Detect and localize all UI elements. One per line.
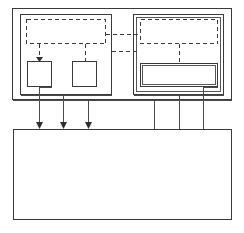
right-panel — [134, 15, 224, 95]
outer-container — [13, 9, 232, 100]
left-panel — [21, 15, 112, 95]
arrow-connector-three-head — [85, 122, 92, 129]
right-dashed-region — [141, 20, 218, 44]
arrow-connector-two-head — [60, 122, 67, 129]
left-block-two — [73, 62, 97, 87]
right-block-wide — [141, 64, 218, 87]
bottom-box — [14, 130, 232, 220]
arrow-connector-one-head — [36, 122, 43, 129]
block-diagram-canvas — [0, 0, 244, 233]
left-dashed-region — [27, 20, 106, 44]
left-block-one — [28, 62, 52, 87]
right-panel-inner-edge — [137, 18, 221, 92]
diagram-root — [0, 0, 244, 233]
right-block-wide-inner-edge — [143, 66, 216, 85]
